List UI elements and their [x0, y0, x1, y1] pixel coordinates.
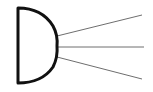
diagram-canvas: [0, 0, 153, 92]
